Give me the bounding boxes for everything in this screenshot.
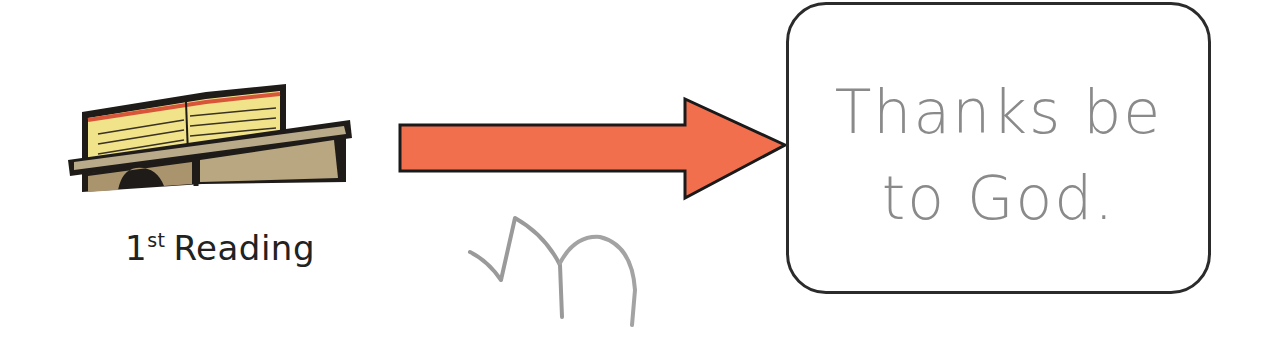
arrow-right-icon [395,95,795,205]
pencil-scribble-mark [460,205,660,335]
lectern-book-icon [64,74,354,199]
response-text: Thanks be to God. [789,69,1208,241]
caption-label: Reading [173,228,315,268]
response-line-1: Thanks be [789,69,1208,155]
caption-superscript: st [147,229,165,251]
caption-number: 1 [125,228,147,268]
response-card: Thanks be to God. [786,2,1211,294]
reading-caption: 1stReading [100,228,340,268]
response-line-2: to God. [789,155,1208,241]
